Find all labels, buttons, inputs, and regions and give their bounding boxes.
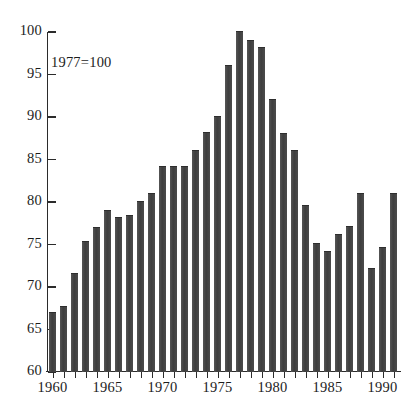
bar (379, 247, 387, 372)
y-tick-label: 60 (0, 362, 42, 379)
x-tick-mark (185, 372, 186, 378)
x-tick-mark (75, 372, 76, 378)
x-tick-mark (251, 372, 252, 378)
bar (148, 193, 156, 373)
x-tick-mark (273, 372, 274, 378)
x-tick-label: 1970 (148, 379, 178, 396)
bar (247, 40, 255, 373)
bar (104, 210, 112, 373)
x-tick-mark (174, 372, 175, 378)
x-tick-label: 1965 (93, 379, 123, 396)
x-tick-mark (240, 372, 241, 378)
x-tick-mark (372, 372, 373, 378)
y-tick-label: 70 (0, 277, 42, 294)
y-tick-label: 90 (0, 107, 42, 124)
bar (126, 215, 134, 372)
x-tick-mark (394, 372, 395, 378)
bar (170, 166, 178, 372)
bar (357, 193, 365, 373)
x-tick-label: 1960 (38, 379, 68, 396)
x-tick-label: 1975 (203, 379, 233, 396)
bar-chart-figure: 1977=100 6065707580859095100 19601965197… (0, 0, 418, 417)
x-tick-mark (86, 372, 87, 378)
y-tick-label: 85 (0, 150, 42, 167)
bar (225, 65, 233, 372)
bar (280, 133, 288, 372)
x-tick-mark (383, 372, 384, 378)
x-tick-mark (130, 372, 131, 378)
bar (390, 193, 398, 373)
bar (192, 150, 200, 372)
bars-layer (47, 32, 399, 372)
y-tick-label: 80 (0, 192, 42, 209)
x-tick-mark (97, 372, 98, 378)
bar (258, 47, 266, 372)
bar (302, 205, 310, 372)
y-tick-label: 100 (0, 22, 42, 39)
bar (236, 31, 244, 372)
x-tick-mark (339, 372, 340, 378)
bar (214, 116, 222, 372)
x-tick-mark (317, 372, 318, 378)
x-tick-mark (295, 372, 296, 378)
bar (60, 306, 68, 372)
bar (93, 227, 101, 373)
bar (71, 273, 79, 372)
y-tick-label: 75 (0, 235, 42, 252)
y-tick-label: 95 (0, 65, 42, 82)
bar (203, 132, 211, 372)
x-tick-mark (53, 372, 54, 378)
x-tick-mark (328, 372, 329, 378)
x-tick-mark (207, 372, 208, 378)
bar (346, 226, 354, 372)
x-tick-mark (306, 372, 307, 378)
bar (368, 268, 376, 372)
bar (181, 166, 189, 372)
bar (313, 243, 321, 372)
x-tick-mark (152, 372, 153, 378)
x-tick-mark (108, 372, 109, 378)
bar (291, 150, 299, 372)
x-tick-mark (229, 372, 230, 378)
x-tick-label: 1990 (368, 379, 398, 396)
x-tick-mark (119, 372, 120, 378)
bar (159, 166, 167, 372)
x-tick-mark (262, 372, 263, 378)
x-tick-mark (361, 372, 362, 378)
x-tick-mark (196, 372, 197, 378)
x-tick-label: 1980 (258, 379, 288, 396)
bar (82, 241, 90, 372)
bar (324, 251, 332, 372)
x-tick-mark (141, 372, 142, 378)
y-tick-label: 65 (0, 320, 42, 337)
bar (115, 217, 123, 372)
bar (269, 99, 277, 372)
x-tick-mark (284, 372, 285, 378)
bar (49, 312, 57, 373)
x-tick-mark (163, 372, 164, 378)
x-tick-mark (218, 372, 219, 378)
x-tick-mark (350, 372, 351, 378)
x-tick-label: 1985 (313, 379, 343, 396)
bar (335, 234, 343, 372)
bar (137, 201, 145, 372)
x-tick-mark (64, 372, 65, 378)
